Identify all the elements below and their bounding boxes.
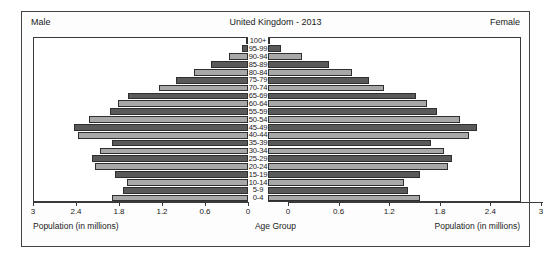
male-bar-20-24 (95, 163, 248, 170)
pyramid-row (33, 92, 521, 100)
female-bar-50-54 (268, 116, 460, 123)
pyramid-row (33, 178, 521, 186)
male-tick-0-label: 0 (228, 207, 268, 216)
pyramid-row (33, 171, 521, 179)
male-bar-55-59 (110, 108, 248, 115)
pyramid-row (33, 163, 521, 171)
male-bar-10-14 (127, 179, 248, 186)
male-bar-25-29 (92, 155, 248, 162)
pyramid-row (33, 147, 521, 155)
pyramid-row (33, 108, 521, 116)
female-bar-10-14 (268, 179, 404, 186)
female-bar-20-24 (268, 163, 448, 170)
pyramid-row (33, 53, 521, 61)
male-tick-1-8-mark (119, 202, 120, 206)
male-bar-5-9 (123, 187, 248, 194)
male-bar-0-4 (112, 195, 248, 202)
male-x-axis (33, 202, 249, 203)
male-tick-1-2-label: 1.2 (142, 207, 182, 216)
female-bar-70-74 (268, 85, 384, 92)
male-bar-40-44 (78, 132, 248, 139)
male-tick-3-mark (33, 202, 34, 206)
female-tick-3-mark (541, 202, 542, 206)
male-bar-30-34 (100, 148, 248, 155)
female-bar-65-69 (268, 93, 416, 100)
female-bar-0-4 (268, 195, 420, 202)
female-axis-title: Population (in millions) (434, 221, 520, 231)
male-bar-70-74 (159, 85, 248, 92)
female-bar-60-64 (268, 100, 427, 107)
female-bar-40-44 (268, 132, 469, 139)
female-tick-1-8-label: 1.8 (420, 207, 460, 216)
male-bar-60-64 (118, 100, 248, 107)
female-tick-0-mark (288, 202, 289, 206)
female-bar-85-89 (268, 61, 329, 68)
pyramid-row (33, 100, 521, 108)
male-tick-3-label: 3 (13, 207, 53, 216)
pyramid-row (33, 45, 521, 53)
pyramid-row (33, 155, 521, 163)
female-tick-2-4-label: 2.4 (470, 207, 510, 216)
female-side-label: Female (490, 17, 520, 28)
female-tick-3-label: 3 (521, 207, 553, 216)
male-bar-95-99 (242, 45, 248, 52)
female-bar-30-34 (268, 148, 444, 155)
pyramid-row (33, 131, 521, 139)
female-bar-90-94 (268, 53, 302, 60)
pyramid-row (33, 186, 521, 194)
pyramid-row (33, 116, 521, 124)
chart-frame: Male United Kingdom - 2013 Female 100+95… (21, 11, 530, 247)
male-tick-1-2-mark (162, 202, 163, 206)
female-tick-0-6-mark (339, 202, 340, 206)
pyramid-row (33, 139, 521, 147)
chart-title: United Kingdom - 2013 (22, 17, 529, 28)
male-tick-1-8-label: 1.8 (99, 207, 139, 216)
pyramid-row (33, 61, 521, 69)
male-bar-15-19 (115, 171, 248, 178)
female-tick-1-2-label: 1.2 (369, 207, 409, 216)
male-tick-0-6-mark (205, 202, 206, 206)
female-tick-2-4-mark (490, 202, 491, 206)
male-bar-90-94 (229, 53, 248, 60)
pyramid-row (33, 68, 521, 76)
female-x-axis (288, 202, 543, 203)
pyramid-row (33, 194, 521, 202)
female-bar-100plus (268, 38, 270, 45)
male-tick-0-mark (248, 202, 249, 206)
female-tick-0-6-label: 0.6 (319, 207, 359, 216)
female-bar-5-9 (268, 187, 408, 194)
female-tick-1-8-mark (440, 202, 441, 206)
female-bar-35-39 (268, 140, 431, 147)
pyramid-row (33, 37, 521, 45)
male-bar-50-54 (89, 116, 248, 123)
female-bar-15-19 (268, 171, 420, 178)
female-tick-0-label: 0 (268, 207, 308, 216)
male-bar-80-84 (194, 69, 248, 76)
male-bar-35-39 (112, 140, 248, 147)
female-bar-55-59 (268, 108, 437, 115)
male-bar-45-49 (74, 124, 248, 131)
male-tick-0-6-label: 0.6 (185, 207, 225, 216)
male-tick-2-4-label: 2.4 (56, 207, 96, 216)
female-tick-1-2-mark (389, 202, 390, 206)
female-bar-45-49 (268, 124, 477, 131)
pyramid-row (33, 123, 521, 131)
female-bar-25-29 (268, 155, 452, 162)
male-tick-2-4-mark (76, 202, 77, 206)
pyramid-row (33, 84, 521, 92)
male-bar-100plus (246, 38, 248, 45)
male-bar-65-69 (128, 93, 248, 100)
male-bar-75-79 (176, 77, 248, 84)
female-bar-95-99 (268, 45, 281, 52)
population-pyramid-plot: 100+95-9990-9485-8980-8475-7970-7465-696… (33, 37, 521, 202)
female-bar-80-84 (268, 69, 352, 76)
male-bar-85-89 (211, 61, 248, 68)
female-bar-75-79 (268, 77, 369, 84)
pyramid-row (33, 76, 521, 84)
